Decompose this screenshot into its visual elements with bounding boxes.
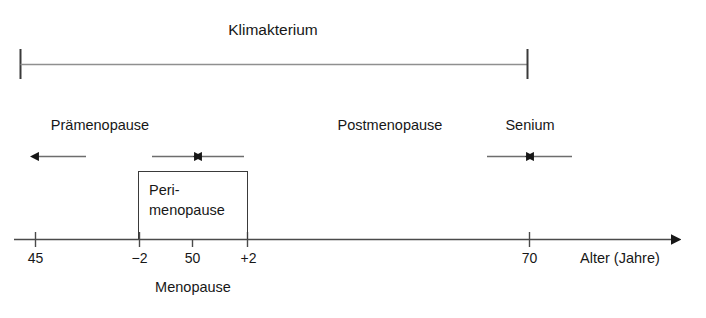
perimenopause-label: Peri- menopause	[149, 181, 225, 220]
age-axis	[14, 232, 672, 247]
axis-tick-label-70: 70	[500, 250, 560, 266]
diagram-vector-layer	[0, 0, 706, 318]
perimenopause-label-line1: Peri-	[149, 182, 180, 198]
axis-tick-label-45: 45	[6, 250, 66, 266]
praemenopause-label: Prämenopause	[0, 118, 200, 133]
klimakterium-label: Klimakterium	[0, 22, 546, 38]
axis-tick-label-plus2: +2	[219, 250, 279, 266]
perimenopause-label-line2: menopause	[149, 202, 225, 218]
perimenopause-box: Peri- menopause	[138, 171, 248, 239]
menopause-timeline-diagram: Klimakterium Prämenopause Postmenopause …	[0, 0, 706, 318]
axis-tick-label-minus2: −2	[110, 250, 170, 266]
klimakterium-span-bracket	[21, 49, 528, 79]
axis-tick-label-50: 50	[163, 250, 223, 266]
menopause-caption: Menopause	[138, 280, 248, 295]
senium-label: Senium	[470, 118, 590, 133]
axis-title: Alter (Jahre)	[580, 251, 660, 266]
